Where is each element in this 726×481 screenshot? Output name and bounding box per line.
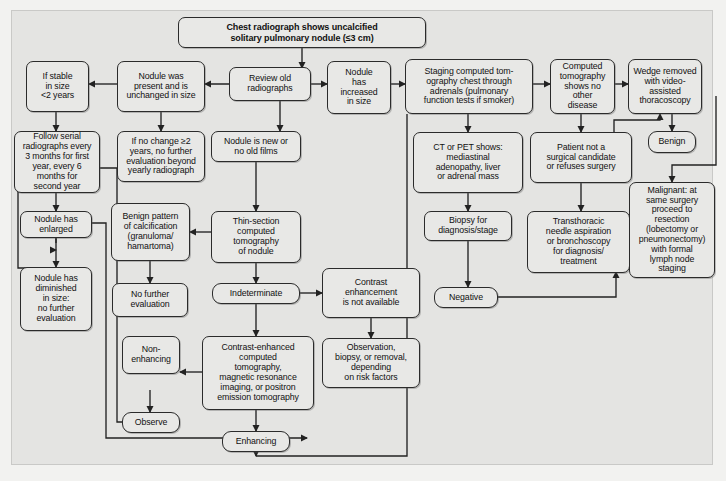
node-not-surgical-candidate: Patient not asurgical candidateor refuse… (530, 132, 632, 183)
node-enhancing: Enhancing (222, 431, 290, 452)
node-malignant: Malignant: atsame surgeryproceed toresec… (629, 182, 715, 278)
node-review-old-radiographs: Review oldradiographs (229, 67, 311, 101)
node-no-further-evaluation: No furtherevaluation (112, 283, 188, 317)
node-if-stable: If stablein size<2 years (26, 61, 89, 112)
node-transthoracic: Transthoracicneedle aspirationor broncho… (527, 211, 630, 273)
node-nodule-new: Nodule is new orno old films (211, 131, 301, 162)
node-start-text: Chest radiograph shows uncalcifiedsolita… (182, 22, 422, 42)
node-thin-section-ct: Thin-sectioncomputedtomographyof nodule (211, 211, 301, 263)
node-benign-pattern: Benign patternof calcification(granuloma… (111, 203, 190, 261)
node-wedge-removed: Wedge removedwith video-assistedthoracos… (628, 59, 702, 114)
node-indeterminate: Indeterminate (212, 283, 300, 304)
node-nodule-present-unchanged: Nodule waspresent and isunchanged in siz… (117, 61, 205, 112)
node-follow-serial: Follow serialradiographs every3 months f… (14, 131, 100, 193)
node-observation-biopsy: Observation,biopsy, or removal,depending… (322, 338, 420, 388)
flowchart-body: Chest radiograph shows uncalcifiedsolita… (0, 0, 726, 481)
node-contrast-enhanced: Contrast-enhancedcomputedtomography,magn… (202, 336, 314, 410)
node-observe: Observe (122, 412, 180, 433)
node-ct-pet-shows: CT or PET shows:mediastinaladenopathy, l… (413, 132, 523, 193)
node-ct-no-other-disease: Computedtomographyshows no otherdisease (550, 59, 615, 114)
figure-canvas: Chest radiograph shows uncalcifiedsolita… (0, 0, 726, 481)
node-nodule-enlarged: Nodule hasenlarged (20, 211, 92, 238)
node-start: Chest radiograph shows uncalcifiedsolita… (178, 17, 426, 48)
node-contrast-unavailable: Contrastenhancementis not available (322, 268, 420, 318)
node-staging-ct: Staging computed tom-ography chest throu… (405, 59, 533, 114)
node-benign: Benign (648, 131, 696, 153)
node-biopsy-for-diagnosis: Biopsy fordiagnosis/stage (424, 211, 512, 241)
node-negative: Negative (434, 287, 498, 308)
node-nodule-increased: Nodulehasincreasedin size (327, 61, 391, 114)
node-nodule-diminished: Nodule hasdiminishedin size:no furtherev… (20, 267, 92, 331)
node-non-enhancing: Non-enhancing (122, 336, 180, 374)
node-no-change-2y: If no change ≥2years, no furtherevaluati… (117, 131, 205, 182)
